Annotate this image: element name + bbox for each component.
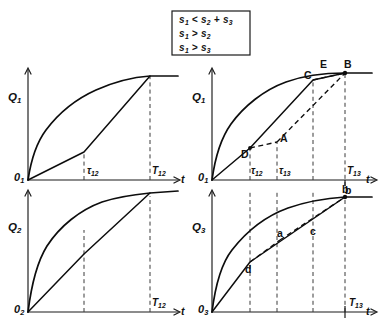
figure-four-panel-q-vs-t: s1 < s2 + s3 s1 > s2 s1 > s3 Q1 01 τ12 T… [0, 0, 386, 330]
top-right-point-C: C [304, 70, 312, 81]
top-right-y-axis-label: Q1 [192, 92, 205, 105]
legend-line-1: s1 < s2 + s3 [179, 15, 233, 27]
bottom-left-y-axis-label: Q2 [8, 222, 21, 235]
bottom-right-x-axis-label: t [366, 306, 370, 317]
top-right-lower-path [212, 73, 345, 180]
top-right-tick-T13: T13 [347, 166, 361, 178]
bottom-right-point-d: d [245, 264, 251, 275]
top-right-point-B: B [344, 59, 352, 70]
top-right-origin-label: 01 [198, 172, 208, 185]
top-right-x-axis-label: t [366, 174, 370, 185]
bottom-right-origin-label: 03 [198, 304, 208, 317]
top-left-tick-T12: T12 [152, 166, 166, 178]
top-right-tick-tau13: τ13 [279, 166, 291, 178]
legend-line-2: s1 > s2 [179, 29, 211, 41]
top-left-y-axis-label: Q1 [8, 92, 21, 105]
top-right-point-D: D [241, 149, 249, 160]
bottom-left-lower-path [28, 193, 150, 312]
top-right-point-A: A [280, 133, 288, 144]
bottom-left-x-axis-label: t [181, 306, 185, 317]
bottom-right-tick-T13: T13 [349, 298, 363, 310]
top-right-tick-tau12: τ12 [251, 166, 263, 178]
top-left-origin-label: 01 [14, 172, 24, 185]
bottom-right-upper-curve [212, 197, 372, 312]
bottom-right-point-a: a [277, 228, 283, 239]
legend-line-3: s1 > s3 [179, 43, 211, 55]
top-left-tick-tau12: τ12 [87, 166, 99, 178]
bottom-left-tick-T12: T12 [152, 298, 166, 310]
bottom-right-point-b: b [345, 185, 351, 196]
bottom-left-upper-curve [28, 191, 178, 312]
top-left-x-axis-label: t [181, 174, 185, 185]
bottom-right-point-c: c [310, 226, 316, 237]
bottom-right-lower-path [212, 197, 345, 312]
top-right-point-B-dot [343, 71, 347, 75]
bottom-right-y-axis-label: Q3 [192, 222, 205, 235]
bottom-left-origin-label: 02 [14, 304, 24, 317]
top-right-point-E: E [320, 59, 327, 70]
